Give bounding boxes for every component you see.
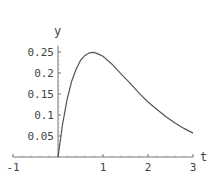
x-axis-label: t (200, 150, 207, 164)
x-tick-label: 1 (100, 161, 107, 174)
x-tick-label: 3 (190, 161, 197, 174)
y-axis: 0.050.10.150.20.25 (28, 46, 62, 157)
y-tick-label: 0.1 (34, 109, 54, 122)
data-curve (58, 52, 193, 157)
chart: -1123 0.050.10.150.20.25 t y (0, 0, 218, 183)
y-tick-label: 0.2 (34, 67, 54, 80)
x-tick-label: -1 (6, 161, 19, 174)
x-tick-label: 2 (145, 161, 152, 174)
y-tick-label: 0.25 (28, 46, 55, 59)
y-tick-label: 0.05 (28, 130, 55, 143)
y-tick-label: 0.15 (28, 88, 55, 101)
x-axis: -1123 (6, 154, 196, 174)
y-axis-label: y (54, 24, 61, 38)
